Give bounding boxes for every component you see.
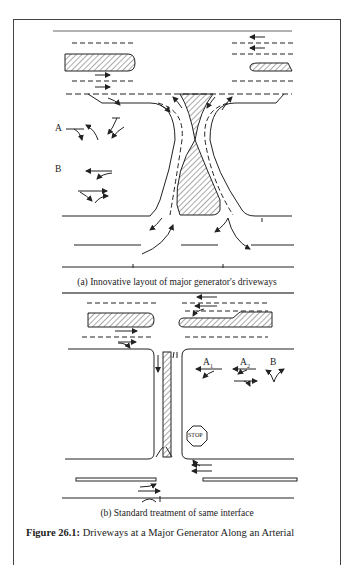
movement-label-a2: A2 xyxy=(240,357,250,369)
figure-title: Driveways at a Major Generator Along an … xyxy=(83,527,294,538)
figure-caption: Figure 26.1: Driveways at a Major Genera… xyxy=(26,526,332,539)
stop-sign: STOP xyxy=(188,432,203,438)
figure-number: Figure 26.1: xyxy=(26,527,80,538)
panel-b-caption: (b) Standard treatment of same interface xyxy=(0,508,354,518)
panel-a-drawing xyxy=(53,31,294,268)
movement-label-a: A xyxy=(55,123,62,133)
panel-a-caption: (a) Innovative layout of major generator… xyxy=(0,277,354,287)
panel-b-drawing xyxy=(62,293,297,502)
movement-label-b: B xyxy=(270,357,276,367)
movement-label-a1: A1 xyxy=(203,357,213,369)
movement-label-b: B xyxy=(55,164,61,174)
